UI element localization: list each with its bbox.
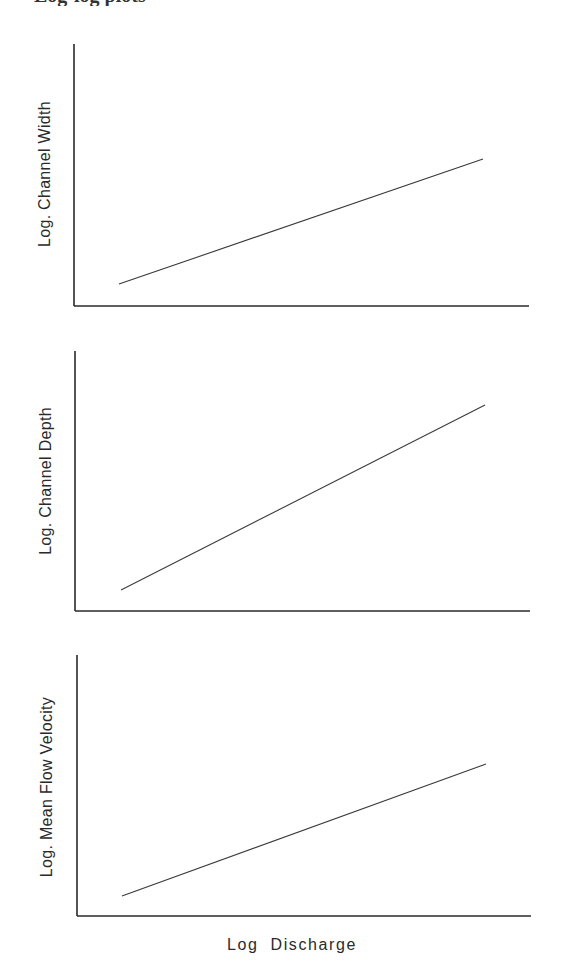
chart-channel-depth [75, 351, 530, 611]
y-axis-label-channel-depth: Log. Channel Depth [37, 407, 55, 555]
chart-mean-flow-velocity [77, 655, 531, 916]
y-axis-label-channel-width: Log. Channel Width [36, 101, 54, 247]
trend-line [121, 405, 485, 590]
x-axis-label-log-discharge: Log Discharge [227, 936, 357, 954]
trend-line [122, 764, 486, 896]
y-axis-label-mean-flow-velocity: Log. Mean Flow Velocity [38, 697, 56, 877]
trend-line [119, 159, 483, 284]
chart-channel-width [74, 44, 529, 306]
plots-canvas [0, 0, 570, 975]
